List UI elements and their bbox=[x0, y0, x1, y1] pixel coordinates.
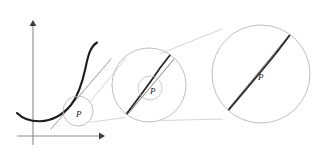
figure-canvas: P P bbox=[0, 0, 330, 160]
connector-original-to-first bbox=[89, 58, 126, 123]
x-axis-arrowhead bbox=[99, 133, 105, 140]
panel-original-graph: P bbox=[17, 20, 111, 145]
local-linearity-figure: P P bbox=[0, 0, 330, 160]
y-axis-arrowhead bbox=[30, 20, 37, 26]
point-label-p-original: P bbox=[75, 109, 82, 119]
point-label-p-zoom1: P bbox=[149, 86, 156, 96]
connector-first-to-second bbox=[161, 29, 224, 121]
panel-second-magnification: P bbox=[210, 22, 310, 132]
function-curve bbox=[17, 43, 97, 122]
function-curve-zoom1 bbox=[111, 39, 186, 134]
point-label-p-zoom2: P bbox=[257, 72, 264, 82]
x-axis bbox=[17, 133, 105, 140]
y-axis bbox=[30, 20, 37, 145]
